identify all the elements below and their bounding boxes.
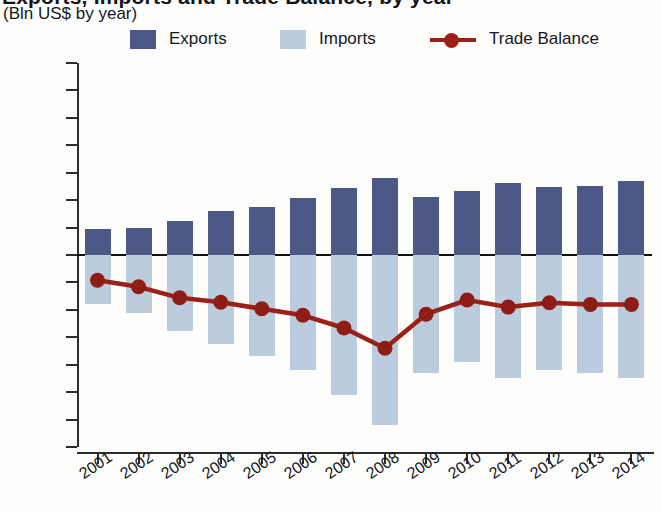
legend-label: Trade Balance [489, 29, 599, 49]
trade-balance-point [295, 308, 310, 323]
legend-line-marker-icon [430, 30, 476, 49]
y-axis-tick [66, 391, 77, 393]
trade-balance-point [583, 297, 598, 312]
trade-balance-point [90, 273, 105, 288]
legend-trade-balance[interactable]: Trade Balance [430, 27, 599, 51]
trade-balance-point [378, 341, 393, 356]
y-axis-tick [66, 89, 77, 91]
y-axis-tick [66, 227, 77, 229]
y-axis-tick [66, 281, 77, 283]
y-axis-tick [66, 144, 77, 146]
trade-balance-point [501, 300, 516, 315]
y-axis-tick [66, 62, 77, 64]
y-axis-tick [66, 172, 77, 174]
legend-imports[interactable]: Imports [280, 27, 376, 51]
y-axis-tick [66, 309, 77, 311]
y-axis-tick [66, 446, 77, 448]
chart-legend: ExportsImportsTrade Balance [130, 27, 650, 51]
trade-balance-point [337, 321, 352, 336]
chart-subtitle: (Bln US$ by year) [3, 4, 137, 24]
trade-balance-path [98, 280, 632, 348]
y-axis-tick [66, 199, 77, 201]
trade-balance-point [172, 290, 187, 305]
y-axis-tick [66, 364, 77, 366]
x-axis-line [77, 452, 654, 454]
chart-figure: Exports, Imports and Trade Balance, by y… [0, 0, 662, 511]
y-axis-tick [66, 254, 77, 256]
trade-balance-point [419, 307, 434, 322]
trade-balance-point [131, 279, 146, 294]
legend-label: Imports [319, 29, 376, 49]
trade-balance-point [213, 295, 228, 310]
legend-label: Exports [169, 29, 227, 49]
legend-swatch-icon [280, 30, 306, 49]
trade-balance-point [254, 301, 269, 316]
legend-exports[interactable]: Exports [130, 27, 227, 51]
legend-swatch-icon [130, 30, 156, 49]
trade-balance-point [460, 293, 475, 308]
y-axis-tick [66, 419, 77, 421]
trade-balance-point [542, 295, 557, 310]
trade-balance-point [624, 297, 639, 312]
y-axis-tick [66, 336, 77, 338]
trade-balance-line-series [77, 60, 652, 450]
y-axis-tick [66, 117, 77, 119]
